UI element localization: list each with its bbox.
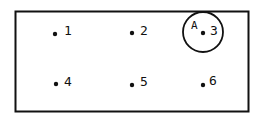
- point-label: 3: [210, 23, 218, 38]
- point-dot: [53, 32, 57, 36]
- point-2: 2: [130, 23, 148, 38]
- point-5: 5: [130, 74, 148, 89]
- point-dot: [130, 83, 134, 87]
- point-1: 1: [53, 23, 72, 38]
- point-dot: [201, 31, 205, 35]
- point-label: 1: [64, 23, 72, 38]
- diagram-canvas: A 1 2 3 4 5 6: [0, 0, 259, 120]
- point-label: 2: [140, 23, 148, 38]
- point-6: 6: [201, 73, 217, 88]
- point-4: 4: [54, 74, 72, 89]
- point-dot: [130, 31, 134, 35]
- point-dot: [54, 82, 58, 86]
- circle-label-a: A: [191, 19, 198, 32]
- point-dot: [201, 83, 205, 87]
- point-label: 6: [209, 73, 217, 88]
- point-label: 4: [64, 74, 72, 89]
- point-3: 3: [201, 23, 218, 38]
- point-label: 5: [140, 74, 148, 89]
